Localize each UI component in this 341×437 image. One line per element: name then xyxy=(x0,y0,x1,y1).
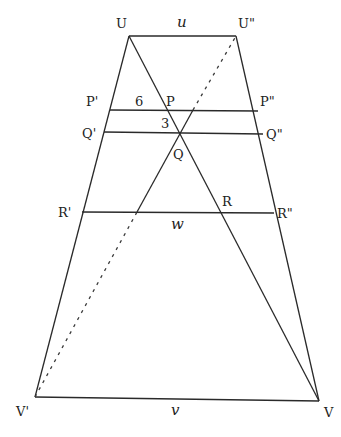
trapezoid-diagram: U U" P' P P" Q' Q Q" R' R R" V' V u w v … xyxy=(0,0,341,437)
label-u2: U" xyxy=(238,16,255,31)
label-v: V xyxy=(323,405,334,420)
label-r: R xyxy=(222,194,233,209)
label-v1: V' xyxy=(15,404,29,419)
label-r2: R" xyxy=(277,206,293,221)
label-bottom-v: v xyxy=(171,401,180,419)
line-q xyxy=(104,132,263,134)
label-r1: R' xyxy=(58,205,71,220)
label-p1: P' xyxy=(86,94,98,109)
label-u: U xyxy=(116,16,127,31)
label-top-u: u xyxy=(177,13,187,31)
line-p xyxy=(110,110,258,111)
label-q1: Q' xyxy=(82,126,96,141)
label-p: P xyxy=(166,94,175,109)
line-r xyxy=(82,212,274,213)
label-p2: P" xyxy=(260,94,275,109)
label-middle-w: w xyxy=(171,215,184,233)
left-side-uv xyxy=(35,36,129,397)
label-q: Q xyxy=(173,147,184,162)
label-q2: Q" xyxy=(266,127,283,142)
diagonal-dashed-lower xyxy=(35,212,137,397)
label-three: 3 xyxy=(161,116,169,131)
label-six: 6 xyxy=(135,94,143,109)
diagonal-dashed-upper xyxy=(193,36,236,110)
